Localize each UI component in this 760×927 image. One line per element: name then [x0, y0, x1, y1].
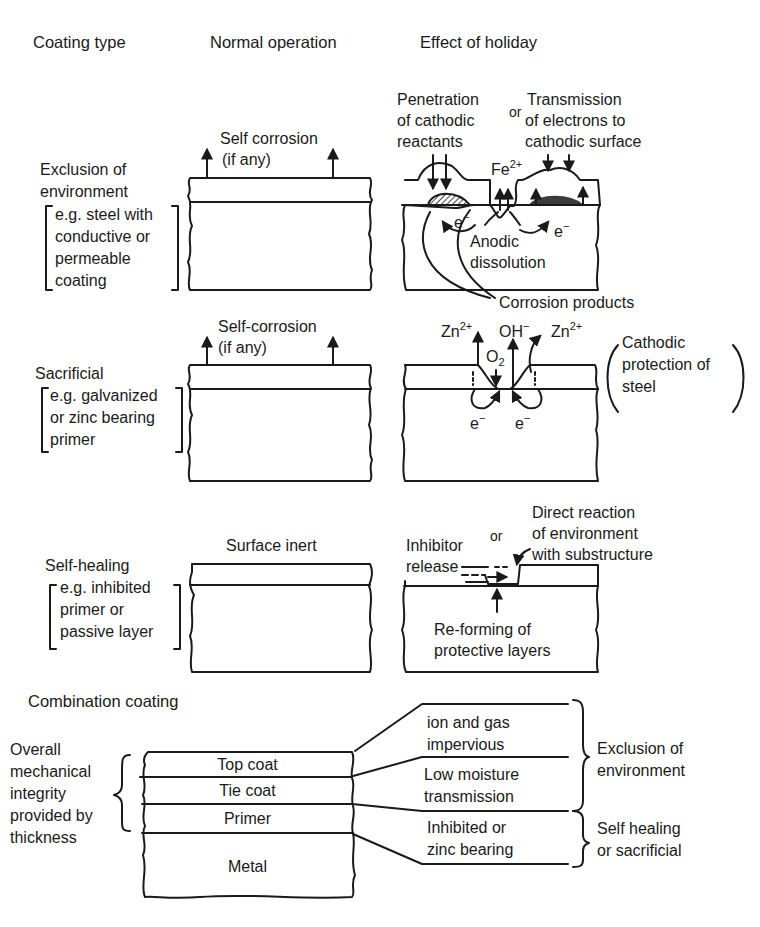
coating-example: e.g. inhibited: [60, 578, 151, 597]
coating-example: passive layer: [60, 622, 153, 641]
mechanical-integrity-note: thickness: [10, 828, 77, 847]
holiday-or-label: or: [490, 527, 502, 546]
property-top-coat: impervious: [427, 735, 504, 754]
electron-label: e−: [454, 213, 469, 232]
property-tie-coat: transmission: [424, 787, 514, 806]
coating-example: primer or: [60, 600, 124, 619]
coating-example: or zinc bearing: [50, 408, 155, 427]
coating-example: e.g. galvanized: [50, 386, 158, 405]
coating-type-title: environment: [40, 182, 128, 201]
mechanical-integrity-note: integrity: [10, 784, 66, 803]
row2-normal-block: [188, 338, 372, 481]
corrosion-products-label: Corrosion products: [499, 293, 634, 312]
direct-reaction-label: of environment: [532, 524, 638, 543]
property-top-coat: ion and gas: [427, 713, 510, 732]
cathodic-protection-note: Cathodic: [622, 333, 685, 352]
combination-title: Combination coating: [28, 692, 178, 711]
oxygen-label: O2: [486, 347, 505, 366]
coating-example: coating: [55, 271, 107, 290]
normal-label: (if any): [222, 150, 271, 169]
property-tie-coat: Low moisture: [424, 765, 519, 784]
normal-label: Surface inert: [226, 536, 317, 555]
header-effect-of-holiday: Effect of holiday: [420, 33, 537, 52]
zinc-ion-label: Zn2+: [441, 322, 472, 341]
holiday-transmission-label: Transmission: [527, 90, 622, 109]
row3-normal-block: [190, 564, 372, 672]
coating-example: e.g. steel with: [55, 205, 153, 224]
property-primer: zinc bearing: [427, 840, 513, 859]
zinc-ion-label: Zn2+: [551, 322, 582, 341]
layer-primer: Primer: [145, 809, 350, 828]
layer-tie-coat: Tie coat: [145, 781, 350, 800]
electron-label: e−: [554, 222, 569, 241]
coating-type-title: Sacrificial: [35, 364, 103, 383]
combination-left-brace: [114, 755, 130, 831]
header-coating-type: Coating type: [33, 33, 126, 52]
cathodic-protection-note: steel: [622, 377, 656, 396]
group-self-healing: Self healing: [597, 819, 681, 838]
anodic-dissolution-label: dissolution: [470, 253, 546, 272]
coating-example: conductive or: [55, 227, 150, 246]
group-exclusion: environment: [597, 761, 685, 780]
property-primer: Inhibited or: [427, 818, 506, 837]
holiday-transmission-label: cathodic surface: [525, 132, 642, 151]
mechanical-integrity-note: provided by: [10, 806, 93, 825]
holiday-penetration-label: reactants: [397, 132, 463, 151]
diagram-line-art: [0, 0, 760, 927]
holiday-penetration-label: Penetration: [397, 90, 479, 109]
direct-reaction-label: Direct reaction: [532, 503, 635, 522]
coating-type-title: Self-healing: [45, 556, 130, 575]
coating-type-title: Exclusion of: [40, 160, 126, 179]
electron-label: e−: [515, 414, 530, 433]
group-exclusion: Exclusion of: [597, 739, 683, 758]
fe-ion-label: Fe2+: [491, 160, 522, 179]
normal-label: Self-corrosion: [218, 317, 317, 336]
header-normal-operation: Normal operation: [210, 33, 337, 52]
mechanical-integrity-note: mechanical: [10, 762, 91, 781]
cathodic-protection-note: protection of: [622, 355, 710, 374]
combination-right-braces: [573, 700, 589, 867]
reforming-label: protective layers: [434, 641, 551, 660]
holiday-penetration-label: of cathodic: [397, 111, 474, 130]
reforming-label: Re-forming of: [434, 620, 531, 639]
mechanical-integrity-note: Overall: [10, 740, 61, 759]
normal-label: Self corrosion: [220, 129, 318, 148]
holiday-or-label: or: [509, 103, 521, 122]
layer-metal: Metal: [145, 857, 350, 876]
hydroxide-label: OH−: [499, 322, 529, 341]
row1-normal-block: [188, 150, 372, 290]
direct-reaction-label: with substructure: [532, 545, 653, 564]
holiday-transmission-label: of electrons to: [525, 111, 626, 130]
coating-example: primer: [50, 430, 95, 449]
group-self-healing: or sacrificial: [597, 841, 681, 860]
coating-example: permeable: [55, 249, 131, 268]
anodic-dissolution-label: Anodic: [470, 232, 519, 251]
inhibitor-release-label: Inhibitor: [406, 536, 463, 555]
inhibitor-release-label: release: [406, 557, 458, 576]
layer-top-coat: Top coat: [145, 755, 350, 774]
normal-label: (if any): [218, 338, 267, 357]
electron-label: e−: [470, 414, 485, 433]
